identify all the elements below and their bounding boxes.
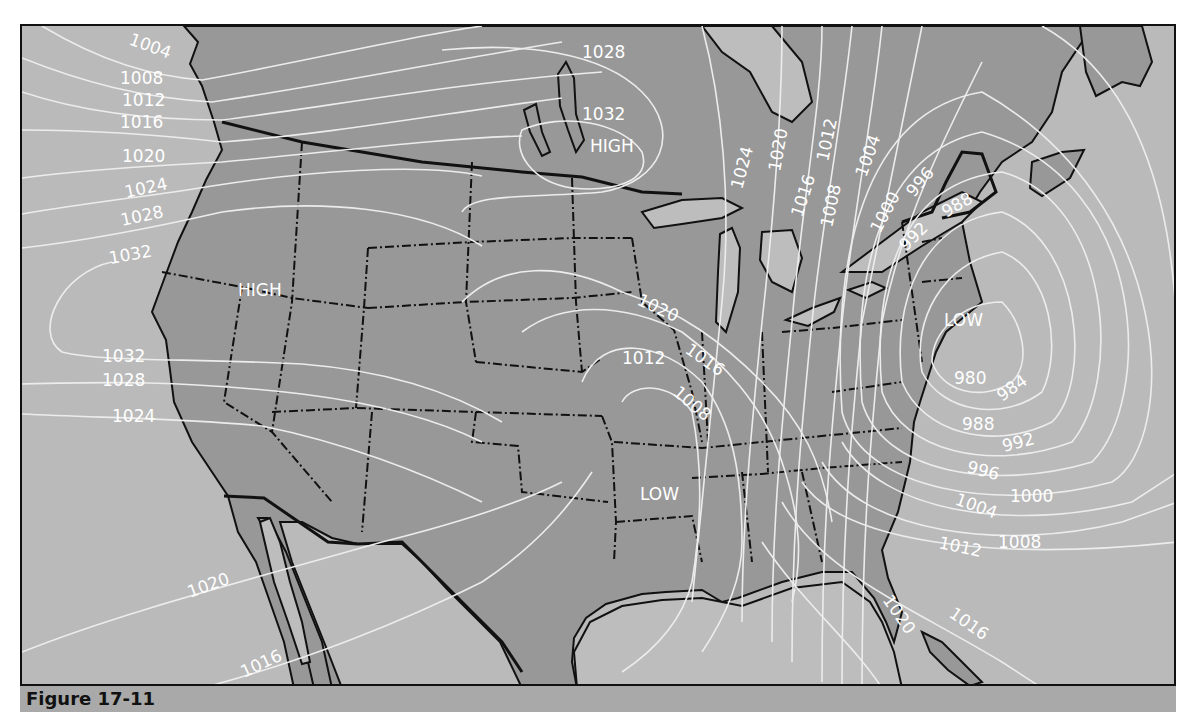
isobar-label: 980 — [954, 368, 986, 388]
low-pressure-label: LOW — [944, 310, 983, 330]
landmass-newfoundland — [1080, 26, 1152, 96]
isobar-label: 1024 — [112, 406, 155, 426]
isobar-label: 1008 — [998, 532, 1041, 552]
high-pressure-label: HIGH — [590, 136, 634, 156]
low-pressure-label: LOW — [640, 484, 679, 504]
isobar-label: 1032 — [102, 346, 145, 366]
figure-caption-bar: Figure 17-11 — [20, 686, 1176, 712]
isobar-label: 1012 — [622, 348, 665, 368]
isobar-label: 1000 — [1010, 486, 1053, 506]
isobar-label: 1028 — [102, 370, 145, 390]
weather-map: 1004 1008 1012 1016 1020 1024 1028 1032 … — [20, 24, 1176, 686]
isobar-label: 1008 — [120, 68, 163, 88]
figure-caption: Figure 17-11 — [26, 688, 155, 709]
isobar-label: 1012 — [122, 90, 165, 110]
map-canvas: 1004 1008 1012 1016 1020 1024 1028 1032 … — [22, 26, 1176, 686]
isobar-label: 988 — [962, 414, 994, 434]
isobar-label: 1032 — [582, 104, 625, 124]
isobar-label: 1028 — [582, 42, 625, 62]
high-pressure-label: HIGH — [238, 280, 282, 300]
isobar-label: 1016 — [120, 112, 163, 132]
isobar-label: 1020 — [122, 146, 165, 166]
